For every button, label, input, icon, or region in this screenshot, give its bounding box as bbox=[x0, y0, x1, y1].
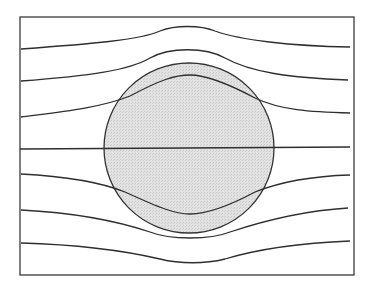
field-lines-diagram bbox=[0, 0, 378, 294]
field-line bbox=[21, 27, 350, 50]
field-line bbox=[21, 241, 350, 263]
